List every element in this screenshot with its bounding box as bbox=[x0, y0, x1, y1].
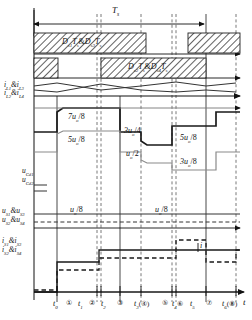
time-tick-c1: ① bbox=[66, 300, 72, 307]
time-tick-c2: ② bbox=[89, 300, 95, 307]
switch-current-waveforms bbox=[34, 240, 240, 292]
time-tick-c5: ⑤ bbox=[162, 300, 168, 307]
time-tick-t2: t2 bbox=[101, 300, 106, 311]
time-axis-label: t bbox=[243, 298, 246, 307]
switch-voltage-waveforms bbox=[34, 214, 240, 228]
inductor-current-label-2: iL2&iL4 bbox=[4, 89, 24, 99]
voltage-level-3uo4: 3uo/4 bbox=[124, 127, 141, 138]
time-tick-t6: t6(⑧) bbox=[222, 300, 237, 311]
time-guide-lines bbox=[97, 14, 236, 302]
switch-level-label-b: uo/8 bbox=[155, 206, 168, 217]
voltage-level-7uo8: 7uo/8 bbox=[68, 113, 85, 124]
time-tick-t0: t0 bbox=[53, 300, 58, 311]
period-label: Ts bbox=[112, 6, 119, 17]
gate-block-1-label: Ds1Ts&Ds3Ts bbox=[62, 38, 101, 49]
voltage-level-3uo8: 3uo/8 bbox=[180, 158, 197, 169]
time-tick-c7: ⑦ bbox=[206, 300, 212, 307]
gate-block-2-label: Ds2Ts&Ds4Ts bbox=[128, 63, 167, 74]
switch-voltage-label-2: uS2&uS4 bbox=[2, 216, 25, 226]
waveform-figure: Ts Ds1Ts&Ds3Ts Ds2Ts&Ds4Ts iL1&iL3 iL2&i… bbox=[0, 0, 252, 320]
switch-level-label-a: uo/8 bbox=[70, 206, 83, 217]
cap-voltage-marks bbox=[34, 185, 47, 191]
time-tick-t3: t3(④) bbox=[134, 300, 149, 311]
time-tick-t1: t1 bbox=[78, 300, 83, 311]
cap-voltage-label-2: uCd2 bbox=[22, 176, 34, 186]
time-tick-t5: t5 bbox=[190, 300, 195, 311]
switch-current-marker-label: i bbox=[200, 242, 202, 250]
switch-current-label-2: iS2&iS4 bbox=[2, 246, 21, 256]
time-axis bbox=[34, 286, 244, 296]
voltage-level-5uo8-a: 5uo/8 bbox=[68, 136, 85, 147]
voltage-level-uo2: uo/2 bbox=[126, 150, 139, 161]
time-tick-c3: ③ bbox=[117, 300, 123, 307]
inductor-current-traces bbox=[34, 82, 240, 96]
time-tick-t4: t4⑥ bbox=[172, 300, 183, 311]
voltage-level-5uo8-b: 5uo/8 bbox=[180, 134, 197, 145]
